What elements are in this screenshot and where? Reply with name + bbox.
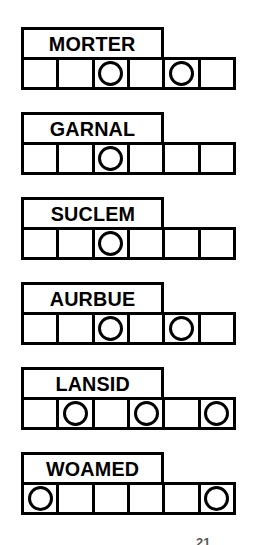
scrambled-word-box: LANSID	[21, 367, 164, 400]
answer-grid	[21, 482, 236, 515]
circle-marker-icon	[169, 316, 194, 341]
scrambled-word-text: AURBUE	[50, 288, 136, 309]
answer-cell[interactable]	[24, 315, 59, 342]
answer-cell[interactable]	[95, 60, 130, 87]
answer-cell[interactable]	[59, 485, 94, 512]
scrambled-word-box: AURBUE	[21, 282, 164, 315]
answer-cell[interactable]	[201, 400, 233, 427]
answer-cell[interactable]	[165, 485, 200, 512]
circle-marker-icon	[28, 486, 53, 511]
scrambled-word-box: MORTER	[21, 27, 164, 60]
circle-marker-icon	[98, 316, 123, 341]
scrambled-word-box: SUCLEM	[21, 197, 164, 230]
scrambled-word-text: LANSID	[55, 373, 130, 394]
answer-cell[interactable]	[201, 230, 233, 257]
answer-cell[interactable]	[95, 485, 130, 512]
answer-cell[interactable]	[165, 145, 200, 172]
answer-cell[interactable]	[201, 485, 233, 512]
scrambled-word-text: MORTER	[49, 33, 136, 54]
puzzle-block: LANSID	[21, 367, 236, 430]
puzzle-block: WOAMED	[21, 452, 236, 515]
puzzle-sheet: MORTER GARNAL SUCLEM	[0, 0, 257, 545]
answer-grid	[21, 312, 236, 345]
answer-cell[interactable]	[130, 230, 165, 257]
circle-marker-icon	[204, 401, 229, 426]
puzzle-block: MORTER	[21, 27, 236, 90]
answer-cell[interactable]	[165, 230, 200, 257]
scrambled-word-text: SUCLEM	[50, 203, 134, 224]
answer-cell[interactable]	[130, 60, 165, 87]
answer-cell[interactable]	[95, 400, 130, 427]
answer-cell[interactable]	[165, 400, 200, 427]
answer-grid	[21, 57, 236, 90]
answer-cell[interactable]	[201, 315, 233, 342]
puzzle-block: GARNAL	[21, 112, 236, 175]
answer-grid	[21, 142, 236, 175]
circle-marker-icon	[63, 401, 88, 426]
answer-cell[interactable]	[95, 145, 130, 172]
scrambled-word-text: GARNAL	[50, 118, 136, 139]
answer-grid	[21, 397, 236, 430]
answer-cell[interactable]	[201, 60, 233, 87]
circle-marker-icon	[169, 61, 194, 86]
answer-cell[interactable]	[130, 400, 165, 427]
answer-cell[interactable]	[59, 315, 94, 342]
circle-marker-icon	[98, 146, 123, 171]
circle-marker-icon	[204, 486, 229, 511]
puzzle-block: SUCLEM	[21, 197, 236, 260]
answer-cell[interactable]	[59, 230, 94, 257]
answer-cell[interactable]	[95, 230, 130, 257]
answer-cell[interactable]	[24, 145, 59, 172]
answer-cell[interactable]	[201, 145, 233, 172]
scrambled-word-text: WOAMED	[46, 458, 139, 479]
answer-cell[interactable]	[59, 60, 94, 87]
scrambled-word-box: GARNAL	[21, 112, 164, 145]
answer-cell[interactable]	[59, 145, 94, 172]
answer-cell[interactable]	[24, 485, 59, 512]
answer-cell[interactable]	[165, 60, 200, 87]
answer-cell[interactable]	[130, 145, 165, 172]
answer-cell[interactable]	[24, 60, 59, 87]
circle-marker-icon	[98, 61, 123, 86]
answer-cell[interactable]	[24, 230, 59, 257]
answer-grid	[21, 227, 236, 260]
answer-cell[interactable]	[165, 315, 200, 342]
caption-fragment: 21	[196, 536, 230, 545]
answer-cell[interactable]	[59, 400, 94, 427]
puzzle-block: AURBUE	[21, 282, 236, 345]
answer-cell[interactable]	[95, 315, 130, 342]
answer-cell[interactable]	[130, 485, 165, 512]
circle-marker-icon	[98, 231, 123, 256]
answer-cell[interactable]	[130, 315, 165, 342]
answer-cell[interactable]	[24, 400, 59, 427]
scrambled-word-box: WOAMED	[21, 452, 164, 485]
circle-marker-icon	[134, 401, 159, 426]
